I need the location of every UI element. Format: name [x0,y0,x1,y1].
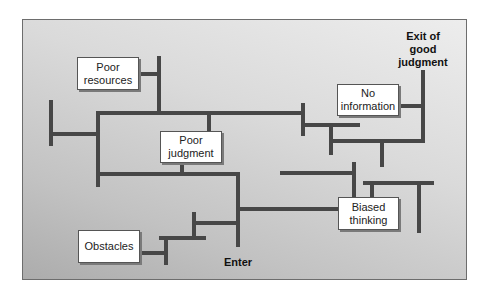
box-line: Biased [350,201,388,214]
exit-line: good [392,43,454,56]
exit-line: Exit of [392,30,454,43]
box-line: information [341,100,395,113]
box-line: Poor [84,61,132,74]
obstacle-poor-resources: Poor resources [77,57,139,90]
obstacle-poor-judgment: Poor judgment [160,131,222,163]
box-line: No [341,87,395,100]
enter-label: Enter [218,256,258,269]
box-line: thinking [350,214,388,227]
box-line: Obstacles [85,240,134,253]
obstacle-obstacles: Obstacles [78,230,140,263]
box-line: resources [84,74,132,87]
box-line: judgment [168,147,213,160]
box-line: Poor [168,134,213,147]
exit-line: judgment [392,56,454,69]
obstacle-no-information: No information [337,84,399,116]
obstacle-biased-thinking: Biased thinking [338,197,399,230]
exit-label: Exit of good judgment [392,30,454,69]
